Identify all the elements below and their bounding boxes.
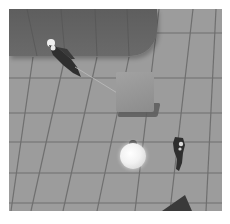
dark-wedge (9, 9, 222, 211)
game-viewport[interactable] (9, 9, 222, 211)
